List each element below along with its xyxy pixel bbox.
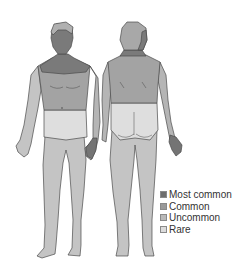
legend-swatch-uncommon — [160, 214, 167, 221]
legend-swatch-most-common — [160, 191, 167, 198]
legend-label: Uncommon — [169, 212, 220, 223]
front-body-figure — [16, 22, 100, 258]
legend-label: Most common — [169, 189, 232, 200]
legend-label: Rare — [169, 224, 191, 235]
legend-item-rare: Rare — [160, 224, 232, 236]
legend-swatch-common — [160, 203, 167, 210]
legend-item-most-common: Most common — [160, 189, 232, 201]
legend-item-common: Common — [160, 201, 232, 213]
legend-item-uncommon: Uncommon — [160, 212, 232, 224]
legend-swatch-rare — [160, 226, 167, 233]
legend-label: Common — [169, 201, 210, 212]
legend: Most common Common Uncommon Rare — [160, 189, 232, 235]
